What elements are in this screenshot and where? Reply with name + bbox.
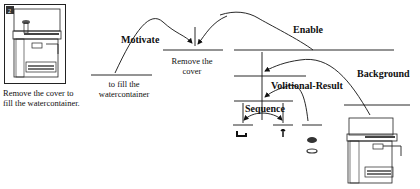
- node-remove-text: Remove the cover: [165, 56, 219, 76]
- relation-motivate-label: Motivate: [121, 34, 159, 45]
- node-remove-line-1: Remove the: [165, 56, 219, 66]
- espresso-machine-image-right: [345, 117, 407, 187]
- cover-hook-icon: [236, 130, 248, 138]
- node-fill-text: to fill the watercontainer: [96, 79, 152, 99]
- node-fill-line-1: to fill the: [96, 79, 152, 89]
- water-container-icon: [305, 136, 319, 156]
- espresso-machine-icon: [345, 117, 407, 187]
- relation-sequence-label: Sequence: [245, 103, 285, 114]
- arrow-up-icon: [280, 129, 286, 137]
- relation-volitional-result-label: Volitional-Result: [271, 80, 343, 91]
- relation-enable-label: Enable: [293, 24, 323, 35]
- node-fill-line-2: watercontainer: [96, 89, 152, 99]
- relation-background-label: Background: [357, 68, 410, 79]
- node-remove-line-2: cover: [165, 66, 219, 76]
